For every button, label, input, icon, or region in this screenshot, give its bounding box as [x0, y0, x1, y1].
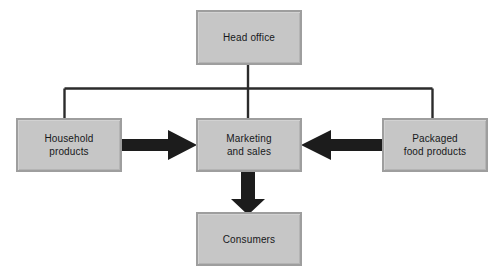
arrow-marketing-to-consumers: [231, 171, 265, 215]
arrow-packaged-to-marketing: [301, 130, 384, 160]
node-head-office-label: Head office: [219, 31, 279, 44]
node-consumers-label: Consumers: [219, 233, 279, 246]
node-household-products[interactable]: Household products: [16, 118, 122, 172]
node-packaged-food-products-label: Packaged food products: [400, 132, 471, 158]
node-household-products-label: Household products: [40, 132, 97, 158]
node-marketing-and-sales-label: Marketing and sales: [222, 132, 275, 158]
node-consumers[interactable]: Consumers: [196, 212, 302, 266]
arrow-household-to-marketing: [120, 130, 197, 160]
organisation-flow-diagram: Head office Household products Marketing…: [0, 0, 494, 276]
node-marketing-and-sales[interactable]: Marketing and sales: [196, 118, 302, 172]
node-head-office[interactable]: Head office: [196, 10, 302, 65]
node-packaged-food-products[interactable]: Packaged food products: [382, 118, 488, 172]
